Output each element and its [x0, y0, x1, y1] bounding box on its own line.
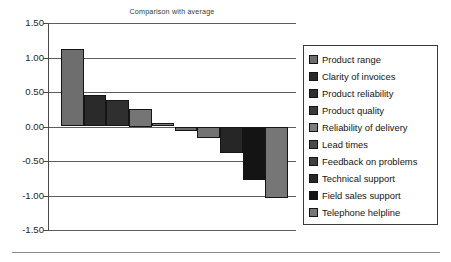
legend-swatch-icon [309, 106, 318, 115]
legend-item: Field sales support [309, 187, 433, 204]
legend-label: Clarity of invoices [322, 72, 395, 81]
y-axis-tick-label: -1.50 [2, 224, 44, 235]
legend-label: Telephone helpline [322, 208, 400, 217]
gridline [48, 92, 296, 93]
chart-title: Comparison with average [48, 7, 296, 16]
gridline [48, 196, 296, 197]
legend-swatch-icon [309, 55, 318, 64]
chart-figure: Comparison with average 1.501.000.500.00… [0, 0, 451, 262]
legend-label: Product range [322, 55, 381, 64]
y-axis-tick-label: -0.50 [2, 155, 44, 166]
y-axis-tick [43, 196, 49, 197]
legend-swatch-icon [309, 72, 318, 81]
bar [84, 95, 107, 127]
legend-item: Product reliability [309, 85, 433, 102]
y-axis-tick [43, 58, 49, 59]
bar [175, 127, 198, 132]
bar [265, 127, 288, 199]
gridline [48, 230, 296, 231]
bar [220, 127, 243, 153]
y-axis-tick-label: 0.00 [2, 121, 44, 132]
y-axis-tick [43, 127, 49, 128]
chart-legend: Product rangeClarity of invoicesProduct … [303, 45, 438, 225]
legend-item: Clarity of invoices [309, 68, 433, 85]
legend-item: Lead times [309, 136, 433, 153]
legend-item: Feedback on problems [309, 153, 433, 170]
y-axis-tick-label: 0.50 [2, 86, 44, 97]
y-axis-tick [43, 161, 49, 162]
legend-label: Feedback on problems [322, 157, 417, 166]
bar [129, 109, 152, 126]
legend-label: Reliability of delivery [322, 123, 407, 132]
bar [152, 123, 175, 126]
y-axis-tick-label: -1.00 [2, 190, 44, 201]
legend-swatch-icon [309, 140, 318, 149]
legend-swatch-icon [309, 208, 318, 217]
legend-item: Product range [309, 51, 433, 68]
legend-label: Technical support [322, 174, 395, 183]
y-axis-labels: 1.501.000.500.00-0.50-1.00-1.50 [0, 23, 44, 230]
legend-item: Reliability of delivery [309, 119, 433, 136]
y-axis-tick [43, 23, 49, 24]
bar [197, 127, 220, 138]
bottom-divider [12, 252, 440, 253]
y-axis-tick-label: 1.00 [2, 52, 44, 63]
bar [61, 49, 84, 126]
legend-swatch-icon [309, 174, 318, 183]
legend-swatch-icon [309, 191, 318, 200]
y-axis-tick-label: 1.50 [2, 17, 44, 28]
legend-item: Technical support [309, 170, 433, 187]
bar [106, 100, 129, 127]
legend-item: Product quality [309, 102, 433, 119]
legend-swatch-icon [309, 123, 318, 132]
legend-label: Field sales support [322, 191, 401, 200]
legend-label: Lead times [322, 140, 368, 149]
y-axis-tick [43, 230, 49, 231]
legend-swatch-icon [309, 157, 318, 166]
gridline [48, 58, 296, 59]
legend-label: Product reliability [322, 89, 393, 98]
y-axis-tick [43, 92, 49, 93]
plot-area [48, 23, 296, 230]
legend-label: Product quality [322, 106, 384, 115]
bar [243, 127, 266, 180]
gridline [48, 23, 296, 24]
legend-item: Telephone helpline [309, 204, 433, 221]
legend-swatch-icon [309, 89, 318, 98]
